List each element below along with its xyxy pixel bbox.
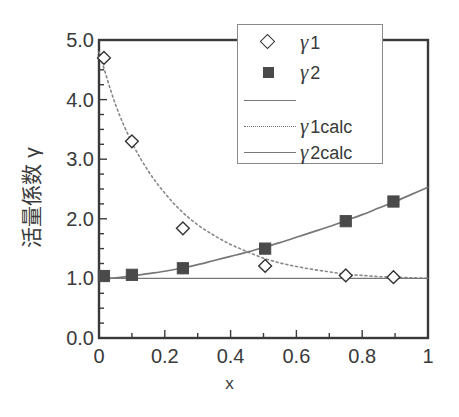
legend-label-suffix: 2calc: [308, 143, 352, 163]
legend-entry: γ2: [238, 59, 384, 85]
solid-line-icon: [244, 152, 296, 153]
data-point-gamma2: [260, 243, 271, 254]
legend-label: γ2calc: [300, 140, 352, 165]
data-point-gamma1: [339, 269, 352, 282]
x-tick-label: 1: [403, 345, 453, 367]
legend-entry: [238, 87, 384, 113]
x-axis-title: x: [0, 374, 459, 394]
x-tick-label: 0.4: [206, 345, 256, 367]
data-point-gamma1: [387, 271, 400, 284]
data-point-gamma2: [388, 196, 399, 207]
series-markers-gamma2: [98, 196, 399, 282]
legend-entry: γ2calc: [238, 139, 384, 165]
legend-key: [238, 87, 300, 113]
legend-label: γ2: [300, 60, 320, 85]
chart-figure: 活量係数 γ 0.01.02.03.04.05.0 00.20.40.60.81…: [0, 0, 459, 417]
legend-key: [238, 29, 300, 55]
x-axis-tick-labels: 00.20.40.60.81: [0, 345, 459, 371]
data-point-gamma2: [177, 263, 188, 274]
data-point-gamma2: [98, 270, 109, 281]
data-point-gamma1: [126, 135, 139, 148]
data-point-gamma2: [126, 269, 137, 280]
open-diamond-icon: [260, 34, 276, 50]
x-tick-label: 0.8: [337, 345, 387, 367]
data-point-gamma1: [259, 259, 272, 272]
legend-key: [238, 139, 300, 165]
legend-entry: γ1: [238, 29, 384, 55]
legend-label-suffix: 1calc: [308, 117, 352, 137]
legend-label-suffix: 1: [308, 33, 320, 53]
x-tick-label: 0.6: [271, 345, 321, 367]
x-tick-label: 0: [74, 345, 124, 367]
legend-label: γ1calc: [300, 114, 352, 139]
x-axis-title-text: x: [225, 374, 234, 393]
legend-label: γ1: [300, 30, 320, 55]
chart-legend: γ1γ2γ1calcγ2calc: [237, 24, 383, 164]
solid-thin-line-icon: [244, 100, 296, 101]
legend-entry: γ1calc: [238, 113, 384, 139]
legend-key: [238, 59, 300, 85]
data-point-gamma1: [176, 222, 189, 235]
legend-label-suffix: 2: [308, 63, 320, 83]
legend-key: [238, 113, 300, 139]
filled-square-icon: [263, 67, 274, 78]
dotted-line-icon: [244, 126, 296, 127]
data-point-gamma2: [340, 216, 351, 227]
x-tick-label: 0.2: [140, 345, 190, 367]
